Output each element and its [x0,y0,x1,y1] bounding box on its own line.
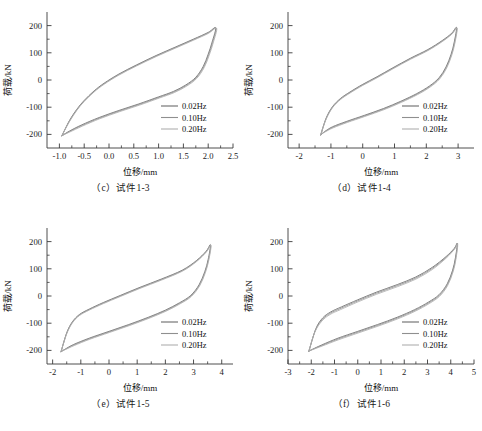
legend-label: 0.02Hz [182,318,207,327]
legend-label: 0.20Hz [182,341,207,350]
panel-caption-e: （e）试件1-5 [0,396,241,410]
x-axis-label: 位移/mm [364,166,399,177]
x-tick-label: -1 [327,151,334,161]
y-tick-label: -100 [267,318,283,328]
x-tick-label: 0 [361,151,365,161]
legend-label: 0.20Hz [182,125,207,134]
x-tick-label: 4 [220,367,225,377]
y-axis-label: 荷载/kN [2,280,13,312]
y-tick-label: -100 [267,102,283,112]
legend-label: 0.10Hz [182,330,207,339]
x-tick-label: 2 [163,367,167,377]
legend-label: 0.10Hz [182,114,207,123]
legend-label: 0.10Hz [423,114,448,123]
plot-area-d: -200-1000100200-2-10123荷载/kN位移/mm0.02Hz0… [241,0,482,178]
plot-area-c: -200-1000100200-1.0-0.50.00.51.01.52.02.… [0,0,241,178]
x-tick-label: -1 [331,367,338,377]
x-tick-label: 2 [402,367,406,377]
figure-grid: -200-1000100200-1.0-0.50.00.51.01.52.02.… [0,0,482,431]
axes-d: -200-1000100200-2-10123 [267,12,474,161]
x-tick-label: 1 [379,367,383,377]
legend-label: 0.10Hz [423,330,448,339]
y-tick-label: 0 [38,291,42,301]
legend-label: 0.02Hz [423,102,448,111]
legend-label: 0.02Hz [182,102,207,111]
x-tick-label: 2.0 [203,151,214,161]
panel-caption-d: （d）试件1-4 [241,180,482,194]
chart-panel-c: -200-1000100200-1.0-0.50.00.51.01.52.02.… [0,0,241,216]
x-tick-label: -2 [296,151,303,161]
x-tick-label: -1.0 [53,151,67,161]
y-tick-label: -200 [267,129,283,139]
plot-area-f: -200-1000100200-3-2-1012345荷载/kN位移/mm0.0… [241,216,482,394]
y-tick-label: 100 [270,48,283,58]
y-tick-label: 200 [270,21,283,31]
y-tick-label: -100 [26,318,42,328]
legend-label: 0.02Hz [423,318,448,327]
y-axis-label: 荷载/kN [2,64,13,96]
y-tick-label: -200 [267,345,283,355]
legend-label: 0.20Hz [423,341,448,350]
x-tick-label: -2 [49,367,56,377]
y-tick-label: -200 [26,345,42,355]
legend-label: 0.20Hz [423,125,448,134]
x-tick-label: 1 [135,367,139,377]
x-tick-label: -1 [77,367,84,377]
x-tick-label: 0.5 [128,151,139,161]
y-axis-label: 荷载/kN [243,280,254,312]
y-tick-label: 0 [38,75,42,85]
x-axis-label: 位移/mm [364,382,399,393]
x-tick-label: 1 [392,151,396,161]
y-tick-label: 0 [279,291,283,301]
x-tick-label: 0.0 [104,151,115,161]
x-axis-label: 位移/mm [123,382,158,393]
x-tick-label: 3 [425,367,429,377]
chart-panel-f: -200-1000100200-3-2-1012345荷载/kN位移/mm0.0… [241,216,482,431]
plot-area-e: -200-1000100200-2-101234荷载/kN位移/mm0.02Hz… [0,216,241,394]
axes-e: -200-1000100200-2-101234 [26,228,233,377]
x-tick-label: -2 [308,367,315,377]
panel-caption-c: （c）试件1-3 [0,180,241,194]
x-tick-label: 0 [356,367,360,377]
x-tick-label: -0.5 [77,151,91,161]
legend-c: 0.02Hz0.10Hz0.20Hz [161,102,207,134]
x-tick-label: 5 [472,367,476,377]
y-tick-label: 200 [29,237,42,247]
x-tick-label: -3 [284,367,291,377]
y-tick-label: 200 [29,21,42,31]
chart-panel-e: -200-1000100200-2-101234荷载/kN位移/mm0.02Hz… [0,216,241,431]
y-tick-label: 100 [270,264,283,274]
x-tick-label: 0 [107,367,111,377]
x-tick-label: 1.0 [153,151,164,161]
panel-caption-f: （f）试件1-6 [241,396,482,410]
y-tick-label: 0 [279,75,283,85]
x-tick-label: 2 [424,151,428,161]
axes-f: -200-1000100200-3-2-1012345 [267,228,476,377]
legend-e: 0.02Hz0.10Hz0.20Hz [161,318,207,350]
x-tick-label: 3 [456,151,460,161]
x-tick-label: 2.5 [228,151,239,161]
chart-panel-d: -200-1000100200-2-10123荷载/kN位移/mm0.02Hz0… [241,0,482,216]
y-tick-label: -100 [26,102,42,112]
legend-d: 0.02Hz0.10Hz0.20Hz [402,102,448,134]
y-tick-label: 100 [29,48,42,58]
y-tick-label: 100 [29,264,42,274]
x-tick-label: 4 [449,367,454,377]
y-tick-label: 200 [270,237,283,247]
y-tick-label: -200 [26,129,42,139]
legend-f: 0.02Hz0.10Hz0.20Hz [402,318,448,350]
y-axis-label: 荷载/kN [243,64,254,96]
x-tick-label: 1.5 [178,151,189,161]
x-tick-label: 3 [191,367,195,377]
x-axis-label: 位移/mm [123,166,158,177]
